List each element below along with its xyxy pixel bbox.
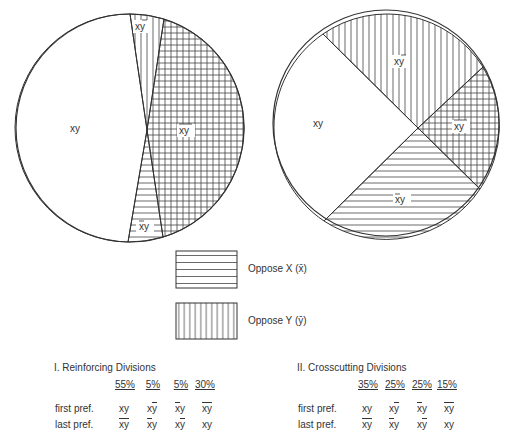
percent-cell: 55%	[111, 379, 139, 390]
row-label-first: first pref.	[298, 403, 337, 414]
symbol-cell: xy	[193, 419, 221, 430]
row-label-last: last pref.	[298, 419, 336, 430]
svg-text:xy: xy	[454, 121, 464, 132]
symbol-cell: xy	[353, 419, 381, 430]
row-label-last: last pref.	[55, 419, 93, 430]
percent-cell: 35%	[354, 379, 382, 390]
legend-swatch-oppose-y	[176, 303, 237, 339]
symbol-cell: xy	[435, 419, 463, 430]
pie-diagram: xy xy xy xy xy xy xy xy	[0, 0, 511, 444]
symbol-cell: xy	[408, 403, 436, 414]
legend-label-oppose-y: Oppose Y (ȳ)	[248, 315, 307, 326]
row-label-first: first pref.	[55, 403, 94, 414]
symbol-cell: xy	[110, 419, 138, 430]
legend-label-oppose-x: Oppose X (x̄)	[248, 263, 307, 274]
percent-cell: 5%	[139, 379, 167, 390]
symbol-cell: xy	[193, 403, 221, 414]
legend-swatch-oppose-x	[176, 251, 237, 288]
symbol-cell: xy	[353, 403, 381, 414]
table-title: I. Reinforcing Divisions	[54, 362, 156, 373]
svg-text:xy: xy	[313, 118, 323, 129]
symbol-cell: xy	[166, 403, 194, 414]
symbol-cell: xy	[138, 403, 166, 414]
percent-cell: 25%	[381, 379, 409, 390]
svg-text:xy: xy	[395, 194, 405, 205]
right-pie: xy xy xy xy	[273, 10, 499, 239]
left-pie: xy xy xy xy	[15, 14, 244, 242]
svg-text:xy: xy	[394, 56, 404, 67]
symbol-cell: xy	[166, 419, 194, 430]
percent-cell: 15%	[433, 379, 461, 390]
symbol-cell: xy	[138, 419, 166, 430]
symbol-cell: xy	[380, 419, 408, 430]
percent-cell: 30%	[191, 379, 219, 390]
svg-text:xy: xy	[139, 221, 149, 232]
symbol-cell: xy	[435, 403, 463, 414]
symbol-cell: xy	[380, 403, 408, 414]
svg-text:xy: xy	[179, 125, 189, 136]
left-slice-xbar-ybar	[147, 19, 244, 237]
table-title: II. Crosscutting Divisions	[297, 362, 406, 373]
symbol-cell: xy	[110, 403, 138, 414]
percent-cell: 25%	[408, 379, 436, 390]
svg-text:xy: xy	[135, 21, 145, 32]
svg-text:xy: xy	[70, 123, 80, 134]
symbol-cell: xy	[408, 419, 436, 430]
